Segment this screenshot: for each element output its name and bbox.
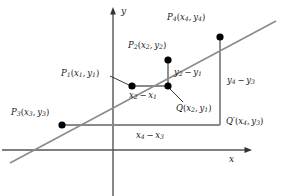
label-delta-y-large: y4 − y3 <box>227 76 255 85</box>
label-p3: P3(x3, y3) <box>11 108 49 117</box>
figure-canvas: y x P4(x4, y4) P2(x2, y2) P1(x1, y1) P3(… <box>0 0 284 196</box>
y-axis <box>110 7 116 196</box>
point-p3 <box>58 121 65 128</box>
label-p2: P2(x2, y2) <box>128 41 166 50</box>
point-p2 <box>164 56 171 63</box>
label-delta-x-small: x2 − x1 <box>129 91 157 100</box>
label-p4: P4(x4, y4) <box>167 13 205 22</box>
label-p1: P1(x1, y1) <box>61 69 99 78</box>
point-p4 <box>216 33 223 40</box>
point-p1 <box>128 82 135 89</box>
label-q-prime: Q′(x4, y3) <box>226 117 263 126</box>
y-axis-label: y <box>121 6 126 16</box>
label-delta-x-large: x4 − x3 <box>136 131 164 140</box>
x-axis-label: x <box>229 154 234 164</box>
label-delta-y-small: y2 − y1 <box>174 68 202 77</box>
label-q: Q(x2, y1) <box>176 104 212 113</box>
point-q <box>164 82 171 89</box>
